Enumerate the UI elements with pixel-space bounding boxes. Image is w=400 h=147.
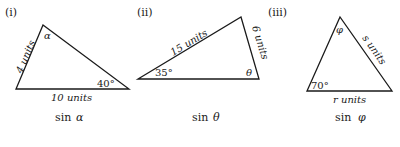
triangle-diagrams: (i) α 40° 4 units 10 units sin α (ii) 35… xyxy=(0,0,400,147)
caption-func: sin xyxy=(335,111,351,124)
angle-unknown-label: θ xyxy=(246,67,252,78)
side-a-label: s units xyxy=(360,33,388,67)
side-b-label: 6 units xyxy=(250,24,271,60)
caption-var: θ xyxy=(213,111,220,124)
angle-known-label: 35° xyxy=(155,67,173,78)
angle-known-label: 40° xyxy=(97,78,115,89)
caption-func: sin xyxy=(55,111,71,124)
figure-i: (i) α 40° 4 units 10 units sin α xyxy=(5,6,129,124)
angle-unknown-label: α xyxy=(44,30,51,41)
caption-var: φ xyxy=(358,111,366,124)
side-a-label: 4 units xyxy=(13,38,37,75)
angle-known-label: 70° xyxy=(311,80,329,91)
figure-number: (ii) xyxy=(137,6,153,19)
figure-iii: (iii) φ 70° s units r units sin φ xyxy=(268,6,392,124)
figure-number: (iii) xyxy=(268,6,287,19)
figure-number: (i) xyxy=(5,6,17,19)
side-b-label: r units xyxy=(333,94,366,105)
caption-func: sin xyxy=(192,111,208,124)
side-a-label: 15 units xyxy=(168,27,209,58)
caption-var: α xyxy=(76,111,84,124)
figure-ii: (ii) 35° θ 15 units 6 units sin θ xyxy=(137,6,271,124)
angle-unknown-label: φ xyxy=(336,24,343,35)
side-b-label: 10 units xyxy=(51,92,92,103)
